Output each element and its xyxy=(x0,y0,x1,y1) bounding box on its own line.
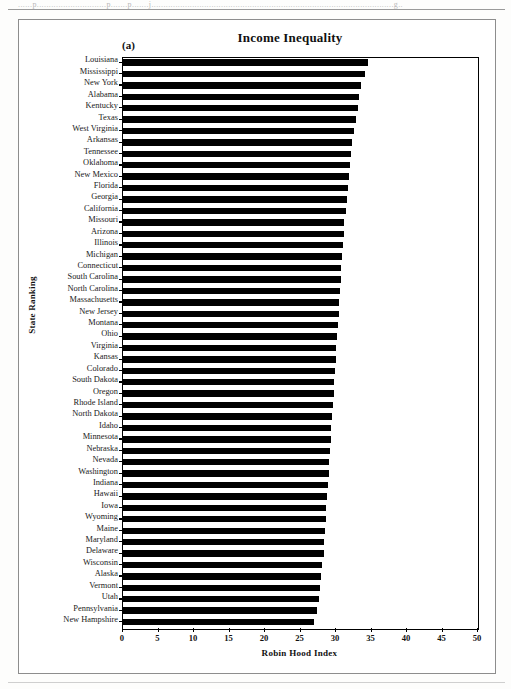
bar-row: Oregon xyxy=(122,388,477,399)
category-label: New Jersey xyxy=(79,307,118,316)
bar-row: Tennessee xyxy=(122,148,477,159)
bar xyxy=(122,128,354,134)
bar-row: Indiana xyxy=(122,480,477,491)
category-label: Nevada xyxy=(92,455,118,464)
bar-row: Idaho xyxy=(122,422,477,433)
bar xyxy=(122,242,343,248)
bar xyxy=(122,288,340,294)
category-label: Pennsylvania xyxy=(73,604,118,613)
category-label: Florida xyxy=(94,181,118,190)
category-label: Iowa xyxy=(101,501,118,510)
category-label: Texas xyxy=(99,113,118,122)
x-axis-tick-label: 5 xyxy=(143,633,173,643)
bar-row: New Hampshire xyxy=(122,617,477,628)
category-label: North Dakota xyxy=(72,409,118,418)
category-label: Minnesota xyxy=(83,432,118,441)
bar xyxy=(122,562,322,568)
bar xyxy=(122,185,348,191)
bar-row: Nevada xyxy=(122,457,477,468)
bar xyxy=(122,402,333,408)
bar-row: Alaska xyxy=(122,571,477,582)
bar xyxy=(122,116,356,122)
bar-row: Oklahoma xyxy=(122,160,477,171)
x-axis-tick-label: 45 xyxy=(427,633,457,643)
x-axis-tick-label: 15 xyxy=(214,633,244,643)
bar xyxy=(122,459,329,465)
category-label: Wisconsin xyxy=(83,558,118,567)
bar xyxy=(122,482,328,488)
bar-row: Utah xyxy=(122,594,477,605)
category-label: New Mexico xyxy=(75,170,119,179)
x-axis-tick-label: 20 xyxy=(249,633,279,643)
x-axis-tick-label: 35 xyxy=(356,633,386,643)
x-axis-tick xyxy=(442,628,443,632)
bar-row: Georgia xyxy=(122,194,477,205)
bar-row: Vermont xyxy=(122,582,477,593)
bar xyxy=(122,528,325,534)
category-label: Rhode Island xyxy=(74,398,118,407)
bars-layer: LouisianaMississippiNew YorkAlabamaKentu… xyxy=(122,57,477,628)
category-label: Alaska xyxy=(95,569,118,578)
bar xyxy=(122,425,331,431)
category-label: Hawaii xyxy=(94,489,118,498)
category-label: Nebraska xyxy=(86,444,118,453)
bar-row: Illinois xyxy=(122,240,477,251)
category-label: New Hampshire xyxy=(63,615,118,624)
bar-row: North Dakota xyxy=(122,411,477,422)
x-axis-tick xyxy=(193,628,194,632)
bar xyxy=(122,253,342,259)
bar xyxy=(122,311,339,317)
bar xyxy=(122,231,344,237)
bar-row: Hawaii xyxy=(122,491,477,502)
x-axis-tick xyxy=(371,628,372,632)
bar xyxy=(122,379,334,385)
x-axis-tick-label: 25 xyxy=(285,633,315,643)
bar-row: Delaware xyxy=(122,548,477,559)
bar xyxy=(122,573,321,579)
bar xyxy=(122,390,334,396)
category-label: Delaware xyxy=(86,546,118,555)
bar-row: New Mexico xyxy=(122,171,477,182)
bar xyxy=(122,585,320,591)
bar-row: New York xyxy=(122,80,477,91)
x-axis-tick xyxy=(477,628,478,632)
x-axis-title: Robin Hood Index xyxy=(122,648,477,658)
category-label: Arkansas xyxy=(87,135,118,144)
bar-row: Montana xyxy=(122,320,477,331)
bar-row: California xyxy=(122,205,477,216)
bar-row: Kansas xyxy=(122,354,477,365)
category-label: Maine xyxy=(97,524,118,533)
category-label: Idaho xyxy=(99,421,118,430)
bar-row: Massachusetts xyxy=(122,297,477,308)
bar-row: Connecticut xyxy=(122,263,477,274)
bar xyxy=(122,596,319,602)
bar-row: Arizona xyxy=(122,228,477,239)
bar xyxy=(122,196,347,202)
bar-row: North Carolina xyxy=(122,285,477,296)
x-axis-tick-label: 30 xyxy=(320,633,350,643)
bar-row: West Virginia xyxy=(122,126,477,137)
bar xyxy=(122,162,350,168)
bar-row: Virginia xyxy=(122,343,477,354)
category-label: North Carolina xyxy=(68,284,118,293)
bar-row: New Jersey xyxy=(122,308,477,319)
category-label: Illinois xyxy=(94,238,118,247)
x-axis-tick-label: 0 xyxy=(107,633,137,643)
bar xyxy=(122,470,329,476)
x-axis-tick-label: 40 xyxy=(391,633,421,643)
bar xyxy=(122,356,336,362)
bar xyxy=(122,619,314,625)
bar-row: Wyoming xyxy=(122,514,477,525)
category-label: Indiana xyxy=(93,478,118,487)
bar xyxy=(122,265,341,271)
category-label: Wyoming xyxy=(85,512,118,521)
bar-row: Iowa xyxy=(122,502,477,513)
bar xyxy=(122,59,368,65)
bar-row: Nebraska xyxy=(122,445,477,456)
bar-row: Alabama xyxy=(122,91,477,102)
category-label: West Virginia xyxy=(72,124,118,133)
x-axis-tick xyxy=(264,628,265,632)
x-axis-tick-label: 50 xyxy=(462,633,492,643)
bar xyxy=(122,505,326,511)
bar xyxy=(122,322,338,328)
